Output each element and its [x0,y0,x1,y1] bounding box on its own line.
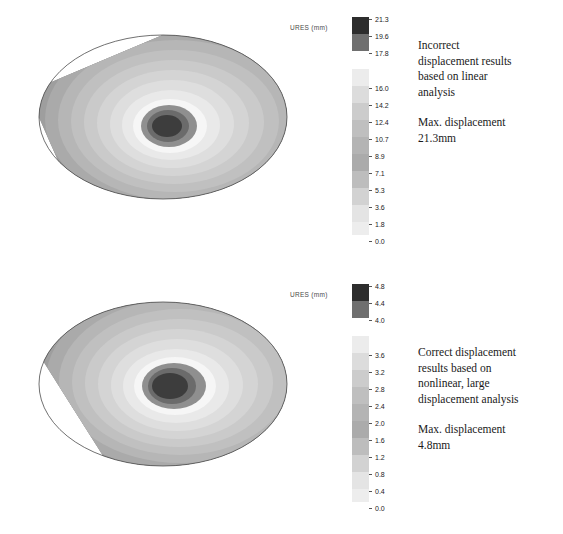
tick-label: 4.0 [375,316,385,323]
linear-contour-plot[interactable] [38,22,288,212]
max-displacement-value: 21.3mm [418,131,558,147]
band-16-0 [352,69,369,86]
caption-line: Correct displacement [418,345,558,361]
tick-label: 2.0 [375,419,385,426]
caption-line: nonlinear, large [418,376,558,392]
caption-line: Incorrect [418,38,558,54]
max-displacement-label: Max. displacement [418,115,558,131]
caption-line: displacement results [418,54,558,70]
caption-line: based on linear [418,69,558,85]
tick-label: 10.7 [375,135,389,142]
nonlinear-contour-svg [38,289,288,479]
legend-title-linear: URES (mm) [290,24,350,31]
band-7-1 [352,154,369,171]
caption-line: results based on [418,361,558,377]
tick-label: 0.8 [375,470,385,477]
colorbar-lower-group [352,69,369,235]
band-1-8 [352,205,369,222]
caption-line: analysis [418,85,558,101]
band-1-2 [352,438,369,455]
tick-label: 5.3 [375,186,385,193]
tick-label: 0.0 [375,237,385,244]
tick-label: 4.4 [375,299,385,306]
tick-label: 1.8 [375,220,385,227]
contour-bands [38,289,288,479]
nonlinear-caption: Correct displacement results based on no… [418,345,558,453]
nonlinear-contour-plot[interactable] [38,289,288,479]
caption-spacer [418,100,558,115]
band-4-8 [352,284,369,301]
tick-label: 17.8 [375,49,389,56]
max-displacement-label: Max. displacement [418,422,558,438]
tick-label: 1.2 [375,453,385,460]
nonlinear-color-legend: URES (mm) 4.8 4.4 4.0 [290,275,390,525]
band-0-0 [352,222,369,235]
tick-label: 4.8 [375,282,385,289]
band-2-8 [352,370,369,387]
band-8-9 [352,137,369,154]
band-0-4 [352,472,369,489]
caption-spacer [418,407,558,422]
linear-caption: Incorrect displacement results based on … [418,38,558,146]
band-5-3 [352,171,369,188]
legend-title-nonlinear: URES (mm) [290,291,350,298]
tick-label: 12.4 [375,118,389,125]
max-displacement-value: 4.8mm [418,438,558,454]
tick-label: 3.2 [375,368,385,375]
band-2-4 [352,387,369,404]
band-1-6 [352,421,369,438]
tick-label: 16.0 [375,84,389,91]
tick-label: 0.4 [375,487,385,494]
band-10-7 [352,120,369,137]
tick-label: 3.6 [375,351,385,358]
tick-label: 0.0 [375,504,385,511]
colorbar-gap [352,51,369,69]
band-19-6 [352,34,369,51]
band-0-8 [352,455,369,472]
tick-label: 2.4 [375,402,385,409]
colorbar-gap [352,318,369,336]
linear-color-legend: URES (mm) 21.3 19.6 17.8 [290,8,390,258]
band-3-2 [352,353,369,370]
band-12-4 [352,103,369,120]
linear-analysis-panel: URES (mm) 21.3 19.6 17.8 [0,0,563,267]
colorbar-nonlinear [352,284,369,502]
band-21-3 [352,17,369,34]
tick-label: 8.9 [375,152,385,159]
band-3-6 [352,188,369,205]
tick-label: 1.6 [375,436,385,443]
tick-label: 21.3 [375,15,389,22]
colorbar-upper-group [352,17,369,51]
band-4-4 [352,301,369,318]
band-0-0 [352,489,369,502]
caption-line: displacement analysis [418,392,558,408]
tick-label: 3.6 [375,203,385,210]
tick-label: 19.6 [375,32,389,39]
band-14-2 [352,86,369,103]
colorbar-linear [352,17,369,235]
band-2-0 [352,404,369,421]
colorbar-lower-group [352,336,369,502]
band-3-6 [352,336,369,353]
linear-contour-svg [38,22,288,212]
colorbar-upper-group [352,284,369,318]
tick-label: 14.2 [375,101,389,108]
tick-label: 7.1 [375,169,385,176]
contour-bands [38,22,288,212]
tick-label: 2.8 [375,385,385,392]
